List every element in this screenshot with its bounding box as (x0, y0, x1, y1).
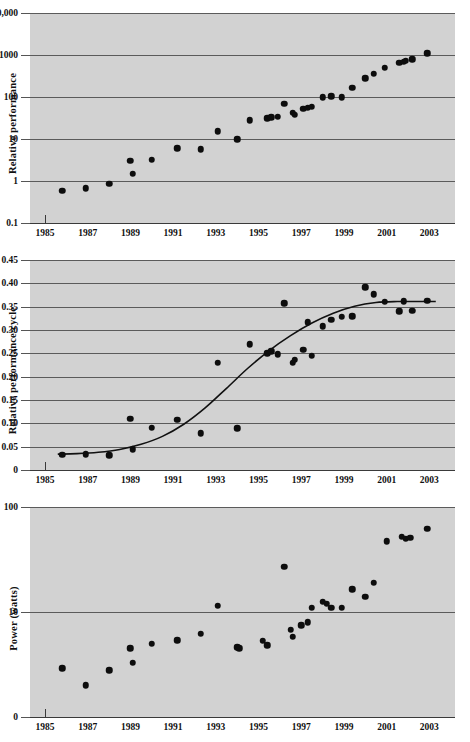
data-point (424, 297, 431, 304)
x-tick-label: 1989 (121, 722, 140, 732)
origin-tick-mark (45, 215, 46, 223)
x-tick-label: 1995 (249, 475, 268, 485)
y-tick-label: 0.30 (0, 325, 18, 335)
fit-curve (30, 260, 455, 470)
data-point (234, 425, 241, 432)
chart-power-watts: Power (watts) 01010019851987198919911993… (0, 494, 470, 742)
y-tick-mark (21, 507, 30, 508)
x-tick-label: 1995 (249, 228, 268, 238)
x-tick-label: 1987 (78, 228, 97, 238)
data-point (407, 534, 414, 541)
y-tick-mark (21, 423, 30, 424)
y-tick-mark (21, 223, 30, 224)
data-point (289, 634, 296, 641)
y-tick-mark (21, 55, 30, 56)
plot-area: 0101001985198719891991199319951997199920… (30, 507, 455, 717)
data-point (319, 323, 326, 330)
data-point (281, 563, 288, 570)
data-point (300, 346, 307, 353)
gridline (30, 612, 455, 613)
data-point (148, 424, 155, 431)
data-point (215, 128, 222, 135)
data-point (148, 157, 155, 164)
data-point (129, 170, 136, 177)
data-point (59, 665, 66, 672)
data-point (174, 637, 181, 644)
data-point (59, 188, 66, 195)
data-point (349, 85, 356, 92)
y-tick-label: 1 (0, 176, 18, 186)
y-axis-title: Relative performance (0, 0, 26, 247)
data-point (371, 70, 378, 77)
gridline (30, 139, 455, 140)
data-point (309, 604, 316, 611)
y-axis-title: Power (watts) (0, 494, 26, 742)
data-point (236, 645, 243, 652)
data-point (174, 416, 181, 423)
data-point (82, 682, 89, 689)
x-tick-label: 1987 (78, 722, 97, 732)
data-point (362, 593, 369, 600)
data-point (339, 94, 346, 101)
data-point (349, 586, 356, 593)
gridline (30, 181, 455, 182)
x-tick-label: 1993 (206, 228, 225, 238)
x-tick-label: 1993 (206, 475, 225, 485)
data-point (349, 313, 356, 320)
y-tick-label: 10 (0, 607, 18, 617)
data-point (292, 111, 299, 118)
plot-panel: 00.050.100.150.200.250.300.350.400.45198… (30, 260, 455, 470)
x-tick-label: 1997 (292, 475, 311, 485)
data-point (106, 667, 113, 674)
data-point (424, 526, 431, 533)
processor-trends-figure: Relative performance 0.1110100100010,000… (0, 0, 470, 742)
x-tick-label: 2003 (420, 228, 439, 238)
data-point (274, 351, 281, 358)
y-tick-label: 0.20 (0, 372, 18, 382)
data-point (127, 158, 134, 165)
data-point (274, 113, 281, 120)
data-point (319, 94, 326, 101)
x-tick-label: 1987 (78, 475, 97, 485)
y-axis-title-text: Relative performance (8, 73, 19, 174)
data-point (309, 104, 316, 111)
data-point (148, 640, 155, 647)
data-point (198, 430, 205, 437)
data-point (198, 631, 205, 638)
fit-curve-path (58, 301, 436, 454)
y-tick-label: 0.10 (0, 418, 18, 428)
y-tick-mark (21, 97, 30, 98)
data-point (309, 352, 316, 359)
x-tick-label: 1991 (164, 722, 183, 732)
data-point (129, 446, 136, 453)
y-tick-mark (21, 260, 30, 261)
data-point (82, 451, 89, 458)
data-point (247, 117, 254, 124)
x-axis-line (30, 470, 455, 471)
data-point (362, 284, 369, 291)
y-tick-mark (21, 139, 30, 140)
data-point (234, 136, 241, 143)
y-tick-mark (21, 377, 30, 378)
x-tick-label: 2003 (420, 475, 439, 485)
data-point (127, 645, 134, 652)
y-tick-label: 1000 (0, 50, 18, 60)
y-tick-label: 0.25 (0, 348, 18, 358)
y-tick-mark (21, 13, 30, 14)
y-tick-label: 0.40 (0, 278, 18, 288)
plot-area: 0.1110100100010,000198519871989199119931… (30, 13, 455, 223)
data-point (383, 538, 390, 545)
x-tick-label: 1991 (164, 475, 183, 485)
data-point (304, 319, 311, 326)
data-point (174, 145, 181, 152)
y-tick-label: 100 (0, 502, 18, 512)
y-tick-label: 0.15 (0, 395, 18, 405)
y-tick-label: 0.05 (0, 442, 18, 452)
data-point (409, 56, 416, 63)
x-tick-label: 2003 (420, 722, 439, 732)
data-point (247, 341, 254, 348)
y-tick-label: 100 (0, 92, 18, 102)
y-axis-title-text: Power (watts) (8, 586, 19, 651)
gridline (30, 97, 455, 98)
origin-tick-mark (45, 709, 46, 717)
